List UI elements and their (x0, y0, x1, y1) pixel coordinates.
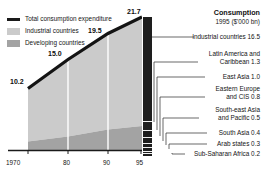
legend-label-total: Total consumption expenditure (25, 15, 112, 23)
region-line-1: Industrial countries 16.5 (192, 33, 260, 41)
value-label-1995: 21.7 (127, 8, 141, 15)
legend-item-total: Total consumption expenditure (7, 14, 137, 24)
x-tick-label-1995: 95 (136, 159, 143, 166)
region-label-south-east-asia-pacific: South-east Asia and Pacific 0.5 (215, 106, 260, 122)
leader-south-asia (166, 133, 207, 145)
breakdown-title: Consumption (214, 8, 260, 17)
chart-legend: Total consumption expenditure Industrial… (7, 14, 137, 50)
legend-swatch-line-icon (7, 18, 20, 21)
region-line-1: East Asia 1.0 (223, 73, 260, 81)
x-tick-label-1990: 90 (103, 159, 110, 166)
legend-swatch-industrial-icon (7, 28, 20, 35)
value-label-1980: 15.0 (48, 50, 62, 57)
value-label-1990: 19.5 (88, 27, 102, 34)
breakdown-title-block: Consumption 1995 ($'000 bn) (214, 8, 260, 26)
area-chart-panel: Total consumption expenditure Industrial… (0, 0, 150, 174)
bar-segment-industrial-countries (143, 17, 152, 122)
legend-swatch-developing-icon (7, 40, 20, 47)
bar-segment-east-asia (143, 131, 152, 138)
region-label-eastern-europe-cis: Eastern Europe and CIS 0.8 (216, 85, 260, 101)
legend-item-industrial: Industrial countries (7, 26, 137, 36)
leader-eastern-europe (160, 97, 205, 136)
consumption-expenditure-figure: Total consumption expenditure Industrial… (0, 0, 263, 174)
bar-segment-sub-saharan-africa (143, 154, 152, 156)
leader-east-asia (157, 77, 205, 130)
value-label-1970: 10.2 (10, 78, 24, 85)
leader-arab-states (169, 144, 207, 149)
region-label-arab-states: Arab states 0.3 (217, 140, 260, 148)
legend-label-developing: Developing countries (25, 39, 85, 47)
region-line-1: Arab states 0.3 (217, 140, 260, 148)
region-label-industrial-countries: Industrial countries 16.5 (192, 33, 260, 41)
breakdown-stacked-bar (143, 17, 152, 156)
breakdown-label-panel: Consumption 1995 ($'000 bn) Industrial c… (152, 0, 263, 174)
region-label-east-asia: East Asia 1.0 (223, 73, 260, 81)
region-line-1: Latin America and (209, 50, 260, 58)
leader-south-east-asia (163, 118, 199, 141)
region-line-1: Eastern Europe (216, 85, 260, 93)
region-label-south-asia: South Asia 0.4 (219, 129, 260, 137)
region-line-1: South Asia 0.4 (219, 129, 260, 137)
region-line-2: and Pacific 0.5 (215, 114, 260, 122)
region-line-2: and CIS 0.8 (216, 93, 260, 101)
region-line-2: Caribbean 1.3 (209, 58, 260, 66)
breakdown-subtitle: 1995 ($'000 bn) (214, 17, 260, 26)
leader-sub-saharan-africa (172, 153, 185, 154)
region-line-1: Sub-Saharan Africa 0.2 (194, 150, 260, 158)
region-label-latin-america-caribbean: Latin America and Caribbean 1.3 (209, 50, 260, 66)
x-tick-label-1980: 80 (63, 159, 70, 166)
legend-label-industrial: Industrial countries (25, 27, 79, 35)
legend-item-developing: Developing countries (7, 38, 137, 48)
bar-segment-latin-america-caribbean (143, 122, 152, 131)
x-tick-label-1970: 1970 (6, 159, 20, 166)
leader-latin-america (154, 62, 198, 122)
region-line-1: South-east Asia (215, 106, 260, 114)
region-label-sub-saharan-africa: Sub-Saharan Africa 0.2 (194, 150, 260, 158)
